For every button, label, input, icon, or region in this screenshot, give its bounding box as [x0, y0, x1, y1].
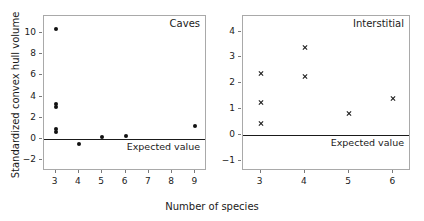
- expected-value-label: Expected value: [127, 142, 200, 152]
- data-point: [346, 110, 353, 117]
- x-tick-label: 5: [333, 177, 363, 186]
- x-tick-mark: [348, 170, 349, 173]
- x-tick-mark: [194, 170, 195, 173]
- x-tick-label: 9: [179, 177, 209, 186]
- data-point: [54, 105, 58, 109]
- expected-value-line: [44, 139, 205, 140]
- panel-interstitial: Interstitial Expected value: [242, 15, 410, 170]
- x-tick-mark: [260, 170, 261, 173]
- data-point: [390, 95, 397, 102]
- plot-area-caves: Expected value: [44, 16, 205, 169]
- y-tick-mark: [39, 96, 42, 97]
- data-point: [124, 134, 128, 138]
- x-tick-mark: [304, 170, 305, 173]
- y-tick-label: 4: [202, 27, 235, 36]
- y-tick-mark: [39, 74, 42, 75]
- data-point: [77, 142, 81, 146]
- expected-value-line: [243, 135, 409, 136]
- y-tick-label: 10: [3, 28, 36, 37]
- panel-caves: Caves Expected value: [43, 15, 206, 170]
- y-tick-label: 2: [3, 113, 36, 122]
- y-tick-label: −1: [202, 156, 235, 165]
- figure: Standardized convex hull volume Number o…: [0, 0, 424, 221]
- plot-area-interstitial: Expected value: [243, 16, 409, 169]
- data-point: [257, 120, 264, 127]
- y-tick-label: 1: [202, 104, 235, 113]
- x-tick-label: 6: [377, 177, 407, 186]
- data-point: [54, 27, 58, 31]
- y-tick-label: 2: [202, 78, 235, 87]
- data-point: [54, 130, 58, 134]
- y-tick-label: 6: [3, 70, 36, 79]
- y-tick-mark: [238, 56, 241, 57]
- data-point: [257, 99, 264, 106]
- x-tick-mark: [392, 170, 393, 173]
- data-point: [193, 124, 197, 128]
- data-point: [301, 73, 308, 80]
- y-tick-label: 0: [3, 134, 36, 143]
- y-tick-label: 3: [202, 52, 235, 61]
- y-tick-mark: [39, 117, 42, 118]
- x-axis-title: Number of species: [0, 202, 424, 212]
- y-tick-label: 4: [3, 92, 36, 101]
- data-point: [257, 70, 264, 77]
- y-tick-label: 0: [202, 130, 235, 139]
- y-tick-mark: [238, 108, 241, 109]
- x-tick-mark: [101, 170, 102, 173]
- x-tick-mark: [55, 170, 56, 173]
- x-tick-label: 4: [289, 177, 319, 186]
- y-tick-mark: [238, 82, 241, 83]
- expected-value-label: Expected value: [331, 138, 404, 148]
- y-tick-mark: [39, 32, 42, 33]
- y-tick-mark: [238, 160, 241, 161]
- data-point: [301, 44, 308, 51]
- y-tick-label: −2: [3, 155, 36, 164]
- x-tick-mark: [171, 170, 172, 173]
- y-tick-mark: [39, 159, 42, 160]
- y-tick-label: 8: [3, 49, 36, 58]
- x-tick-mark: [78, 170, 79, 173]
- y-tick-mark: [39, 138, 42, 139]
- x-tick-mark: [148, 170, 149, 173]
- y-tick-mark: [39, 53, 42, 54]
- x-tick-mark: [125, 170, 126, 173]
- y-tick-mark: [238, 134, 241, 135]
- y-tick-mark: [238, 31, 241, 32]
- x-tick-label: 3: [245, 177, 275, 186]
